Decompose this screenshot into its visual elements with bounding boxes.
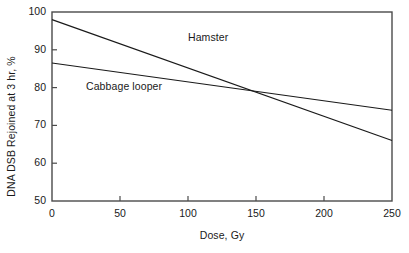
series-label-cabbage-looper: Cabbage looper [86, 80, 162, 92]
y-tick-label: 50 [16, 195, 46, 206]
x-tick-label: 100 [168, 208, 208, 219]
x-tick-label: 150 [236, 208, 276, 219]
y-tick-label: 60 [16, 157, 46, 168]
chart-figure: DNA DSB Rejoined at 3 hr, % Dose, Gy 506… [0, 0, 409, 253]
x-tick-label: 0 [32, 208, 72, 219]
y-tick-label: 90 [16, 44, 46, 55]
axis-ticks [52, 50, 324, 201]
series-label-hamster: Hamster [188, 31, 228, 43]
y-tick-label: 100 [16, 6, 46, 17]
x-axis-title: Dose, Gy [52, 229, 392, 241]
x-tick-label: 200 [304, 208, 344, 219]
x-tick-label: 50 [100, 208, 140, 219]
y-tick-label: 70 [16, 119, 46, 130]
y-tick-label: 80 [16, 82, 46, 93]
x-tick-label: 250 [372, 208, 409, 219]
